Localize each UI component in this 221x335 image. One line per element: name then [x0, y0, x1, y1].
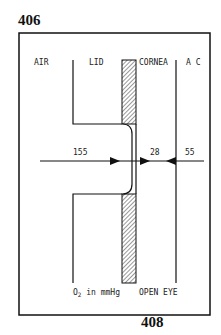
arrow-right-icon	[140, 157, 150, 165]
label-ac: A C	[186, 58, 201, 67]
lid-upper	[73, 60, 122, 124]
diagram-frame	[19, 33, 210, 315]
cornea-epithelium-top	[122, 60, 136, 124]
lid-lower	[73, 194, 122, 283]
tear-film-notch	[122, 124, 132, 194]
value-cornea: 28	[150, 148, 160, 157]
value-air-lid: 155	[73, 148, 88, 157]
label-air: AIR	[34, 58, 49, 67]
cornea-epithelium-bottom	[122, 194, 136, 283]
arrow-left-icon	[166, 157, 176, 165]
arrow-right-icon	[110, 157, 120, 165]
units-label: O2 in mmHg	[73, 288, 120, 298]
oxygen-diagram: AIR LID CORNEA A C 155 28 55 O2 in mmHg …	[0, 0, 221, 335]
value-ac: 55	[185, 148, 195, 157]
label-lid: LID	[89, 58, 104, 67]
label-cornea: CORNEA	[139, 58, 168, 67]
condition-label: OPEN EYE	[139, 288, 178, 297]
